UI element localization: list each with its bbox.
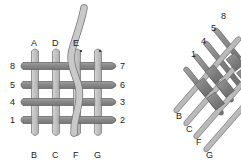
right-bottom-label-B: B: [176, 112, 182, 121]
right-top-label-1: 1: [191, 50, 196, 59]
left-top-label-D: D: [52, 39, 59, 48]
right-row-label-7: 7: [120, 62, 125, 71]
right-row-label-2: 2: [120, 116, 125, 125]
left-horizontal-strand-5-6: [21, 81, 116, 89]
right-top-label-5: 5: [211, 24, 216, 33]
marker-dot-1: [80, 50, 82, 52]
right-row-label-6: 6: [120, 81, 125, 90]
left-row-label-5: 5: [10, 81, 15, 90]
right-top-label-4: 4: [201, 37, 206, 46]
left-row-label-8: 8: [10, 62, 15, 71]
right-bottom-label-G: G: [206, 151, 213, 160]
left-row-label-4: 4: [10, 98, 15, 107]
left-bottom-label-G: G: [94, 151, 101, 160]
right-bottom-label-C: C: [186, 125, 193, 134]
left-bottom-label-B: B: [31, 151, 37, 160]
figure-canvas: A D E 8 5 4 1 7 6 3 2 B C F G 1 4 5 8 B …: [0, 0, 241, 168]
left-horizontal-strand-4-3: [21, 98, 116, 106]
left-horizontal-strand-1-2: [21, 116, 116, 124]
right-row-label-3: 3: [120, 98, 125, 107]
left-bottom-label-C: C: [52, 151, 59, 160]
right-bottom-label-F: F: [196, 138, 202, 147]
right-top-label-8: 8: [221, 12, 226, 21]
left-top-label-A: A: [31, 39, 37, 48]
left-row-label-1: 1: [10, 116, 15, 125]
left-top-label-E: E: [73, 39, 79, 48]
left-bottom-label-F: F: [73, 151, 79, 160]
marker-dot-2: [99, 50, 101, 52]
